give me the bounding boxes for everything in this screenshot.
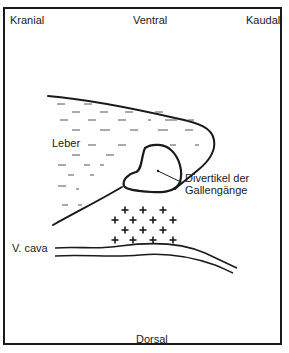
plus-mark (122, 227, 129, 234)
label-dorsal: Dorsal (136, 333, 168, 346)
plus-mark (150, 237, 157, 244)
diverticulum-outline (124, 145, 182, 192)
plus-mark (140, 207, 147, 214)
label-leber: Leber (52, 137, 80, 150)
vena-cava-lower-wall (55, 254, 233, 273)
plus-mark (160, 207, 167, 214)
label-kranial: Kranial (10, 14, 44, 27)
label-vena-cava: V. cava (12, 242, 48, 255)
plus-mark (150, 217, 157, 224)
liver-outline (48, 96, 214, 225)
plus-mark (130, 217, 137, 224)
plus-mark (112, 237, 119, 244)
label-divertikel-line2: Gallengänge (185, 184, 247, 197)
diverticulum-leader-dot (157, 170, 159, 172)
plus-mark (170, 217, 177, 224)
plus-mark (122, 207, 129, 214)
label-kaudal: Kaudal (246, 14, 280, 27)
plus-mark (130, 237, 137, 244)
plus-mark (140, 227, 147, 234)
plus-mark (160, 227, 167, 234)
plus-mark (112, 217, 119, 224)
plus-mark (170, 237, 177, 244)
label-ventral: Ventral (133, 14, 167, 27)
connective-tissue-plus-marks (112, 207, 177, 244)
diverticulum-leader-line (158, 171, 183, 183)
